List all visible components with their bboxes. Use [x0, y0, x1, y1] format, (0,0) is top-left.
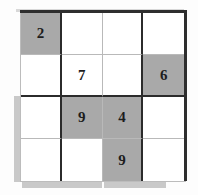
sudoku-cell-r1c1[interactable]: 2	[21, 13, 62, 55]
sudoku-cell-r2c2[interactable]: 7	[62, 55, 103, 97]
sudoku-cell-r3c4[interactable]	[143, 97, 184, 139]
sudoku-cell-value: 4	[118, 110, 126, 125]
scan-artifact-top	[16, 9, 184, 12]
scan-artifact-bottom-left	[22, 181, 102, 188]
sudoku-cell-r3c2[interactable]: 9	[62, 97, 103, 139]
sudoku-cell-value: 2	[37, 26, 45, 41]
sudoku-cell-r4c2[interactable]	[62, 139, 103, 181]
sudoku-cell-r3c1[interactable]	[21, 97, 62, 139]
sudoku-cell-r2c3[interactable]	[103, 55, 144, 97]
sudoku-scan-image: 2 7 6 9 4 9	[0, 0, 198, 195]
sudoku-cell-value: 6	[160, 68, 168, 83]
sudoku-cell-value: 9	[78, 110, 86, 125]
sudoku-cell-r2c4[interactable]: 6	[143, 55, 184, 97]
sudoku-cell-r1c4[interactable]	[143, 13, 184, 55]
sudoku-cell-r4c4[interactable]	[143, 139, 184, 181]
sudoku-cell-r1c3[interactable]	[103, 13, 144, 55]
sudoku-cell-value: 7	[78, 68, 86, 83]
sudoku-cell-r2c1[interactable]	[21, 55, 62, 97]
scan-artifact-bottom-right	[104, 181, 166, 188]
sudoku-cell-r1c2[interactable]	[62, 13, 103, 55]
sudoku-cell-value: 9	[118, 153, 126, 168]
sudoku-cell-r4c3[interactable]: 9	[103, 139, 144, 181]
sudoku-cell-r4c1[interactable]	[21, 139, 62, 181]
sudoku-grid-cells: 2 7 6 9 4 9	[21, 13, 184, 181]
sudoku-grid: 2 7 6 9 4 9	[21, 13, 184, 181]
sudoku-cell-r3c3[interactable]: 4	[103, 97, 144, 139]
